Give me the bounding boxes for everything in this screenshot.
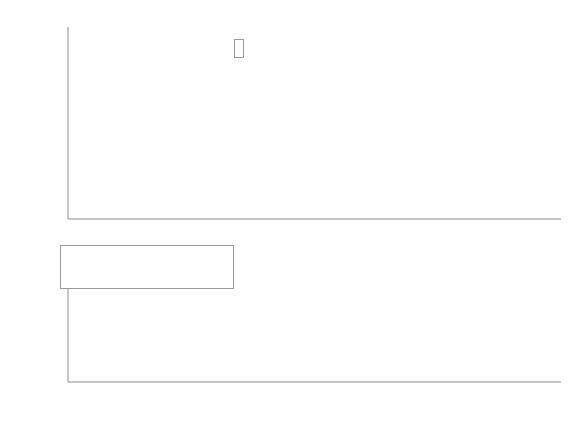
- bottom-chart-legend: [60, 245, 234, 289]
- zooplankton-biomass-area-chart: [0, 0, 571, 431]
- running-header-text: [150, 1, 450, 10]
- figure-panel: [0, 0, 571, 431]
- top-chart-legend: [234, 39, 244, 58]
- o-nerka-density-bar-chart: [0, 0, 571, 431]
